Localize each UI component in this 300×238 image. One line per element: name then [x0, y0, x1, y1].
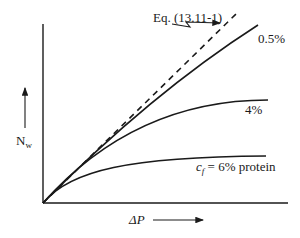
- y-axis-label: Nw: [16, 133, 32, 150]
- label-6-percent-protein: cf = 6% protein: [196, 159, 276, 176]
- label-4-percent: 4%: [245, 102, 263, 117]
- label-0.5-percent: 0.5%: [258, 31, 285, 46]
- curve-4-percent: [43, 100, 268, 203]
- flux-vs-pressure-diagram: Eq. (13.11-1) 0.5% 4% cf = 6% protein Nw…: [0, 0, 300, 238]
- curve-0.5-percent: [43, 25, 258, 203]
- x-axis-label: ΔP: [128, 212, 145, 227]
